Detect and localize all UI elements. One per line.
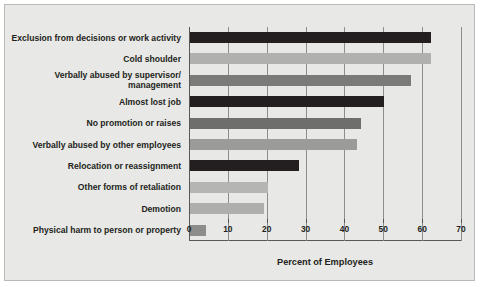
category-label-wrap: Exclusion from decisions or work activit…	[5, 27, 181, 48]
x-tick-label: 0	[187, 224, 192, 234]
category-label: Verbally abused by other employees	[32, 140, 181, 150]
bar-row	[189, 177, 461, 198]
category-label-wrap: Verbally abused by supervisor/ managemen…	[5, 70, 181, 91]
bar	[190, 139, 357, 150]
category-label-wrap: Relocation or reassignment	[5, 155, 181, 176]
x-tick-label: 20	[262, 224, 271, 234]
x-tick-label: 50	[379, 224, 388, 234]
bar-row	[189, 48, 461, 69]
category-label: Cold shoulder	[123, 54, 181, 64]
gridline-70	[461, 27, 462, 241]
category-label: Physical harm to person or property	[33, 225, 181, 235]
x-tick-mark	[383, 219, 384, 223]
category-label-wrap: Physical harm to person or property	[5, 220, 181, 241]
bar	[190, 53, 431, 64]
category-label: Demotion	[141, 204, 181, 214]
category-label: Almost lost job	[119, 97, 181, 107]
bar	[190, 96, 384, 107]
bar	[190, 203, 264, 214]
bar	[190, 160, 299, 171]
bar	[190, 75, 411, 86]
x-axis-title: Percent of Employees	[189, 257, 461, 267]
bar-row	[189, 155, 461, 176]
category-label-wrap: Other forms of retaliation	[5, 177, 181, 198]
category-label-wrap: Verbally abused by other employees	[5, 134, 181, 155]
x-tick-label: 70	[456, 224, 465, 234]
x-tick-mark	[461, 219, 462, 223]
x-tick-mark	[267, 219, 268, 223]
bar-row	[189, 27, 461, 48]
bar-row	[189, 134, 461, 155]
bar	[190, 182, 268, 193]
plot-area	[189, 27, 461, 241]
bar	[190, 32, 431, 43]
category-label: Exclusion from decisions or work activit…	[11, 33, 181, 43]
x-tick-mark	[422, 219, 423, 223]
x-tick-mark	[189, 219, 190, 223]
category-label-wrap: Cold shoulder	[5, 48, 181, 69]
x-tick-label: 40	[340, 224, 349, 234]
bar-row	[189, 113, 461, 134]
category-label: Other forms of retaliation	[78, 182, 181, 192]
bar-row	[189, 91, 461, 112]
x-tick-label: 30	[301, 224, 310, 234]
chart-figure: Exclusion from decisions or work activit…	[4, 4, 475, 281]
bar	[190, 225, 206, 236]
x-tick-label: 60	[417, 224, 426, 234]
category-axis-labels: Exclusion from decisions or work activit…	[5, 27, 185, 241]
category-label: No promotion or raises	[86, 118, 181, 128]
bar-row	[189, 70, 461, 91]
x-tick-mark	[228, 219, 229, 223]
x-tick-mark	[306, 219, 307, 223]
category-label-wrap: Almost lost job	[5, 91, 181, 112]
x-tick-mark	[344, 219, 345, 223]
bar-row	[189, 198, 461, 219]
bar	[190, 118, 361, 129]
category-label-wrap: Demotion	[5, 198, 181, 219]
category-label-wrap: No promotion or raises	[5, 113, 181, 134]
category-label: Relocation or reassignment	[68, 161, 181, 171]
category-label: Verbally abused by supervisor/ managemen…	[54, 70, 181, 90]
x-tick-label: 10	[223, 224, 232, 234]
